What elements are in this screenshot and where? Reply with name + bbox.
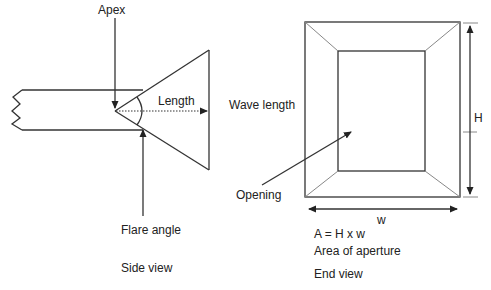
side-view-group: Apex Length Flare angle Side view <box>12 3 209 275</box>
diagonal-top-right <box>425 22 460 51</box>
opening-label: Opening <box>236 188 281 202</box>
height-label: H <box>474 111 483 125</box>
diagonal-bottom-right <box>425 171 460 197</box>
flare-angle-label: Flare angle <box>121 223 181 237</box>
area-description: Area of aperture <box>314 244 401 258</box>
inner-opening-rect <box>338 51 425 171</box>
end-view-caption: End view <box>314 267 363 281</box>
area-formula: A = H x w <box>314 227 365 241</box>
horn-flare <box>115 50 209 170</box>
horn-lower-wall <box>115 111 209 170</box>
length-label: Length <box>158 94 195 108</box>
width-dimension: w <box>309 209 457 227</box>
diagonal-bottom-left <box>305 171 338 197</box>
waveguide-break-zigzag <box>12 90 22 130</box>
waveguide-section <box>12 90 143 130</box>
apex-label: Apex <box>98 3 125 17</box>
width-label: w <box>376 213 386 227</box>
height-dimension: H <box>463 23 483 197</box>
side-view-caption: Side view <box>121 261 173 275</box>
diagonal-top-left <box>305 22 338 51</box>
horn-antenna-diagram: Apex Length Flare angle Side view H <box>0 0 491 290</box>
end-view-group: H w Wave length Opening A = H x w Area o… <box>229 22 483 281</box>
wave-length-label: Wave length <box>229 98 295 112</box>
